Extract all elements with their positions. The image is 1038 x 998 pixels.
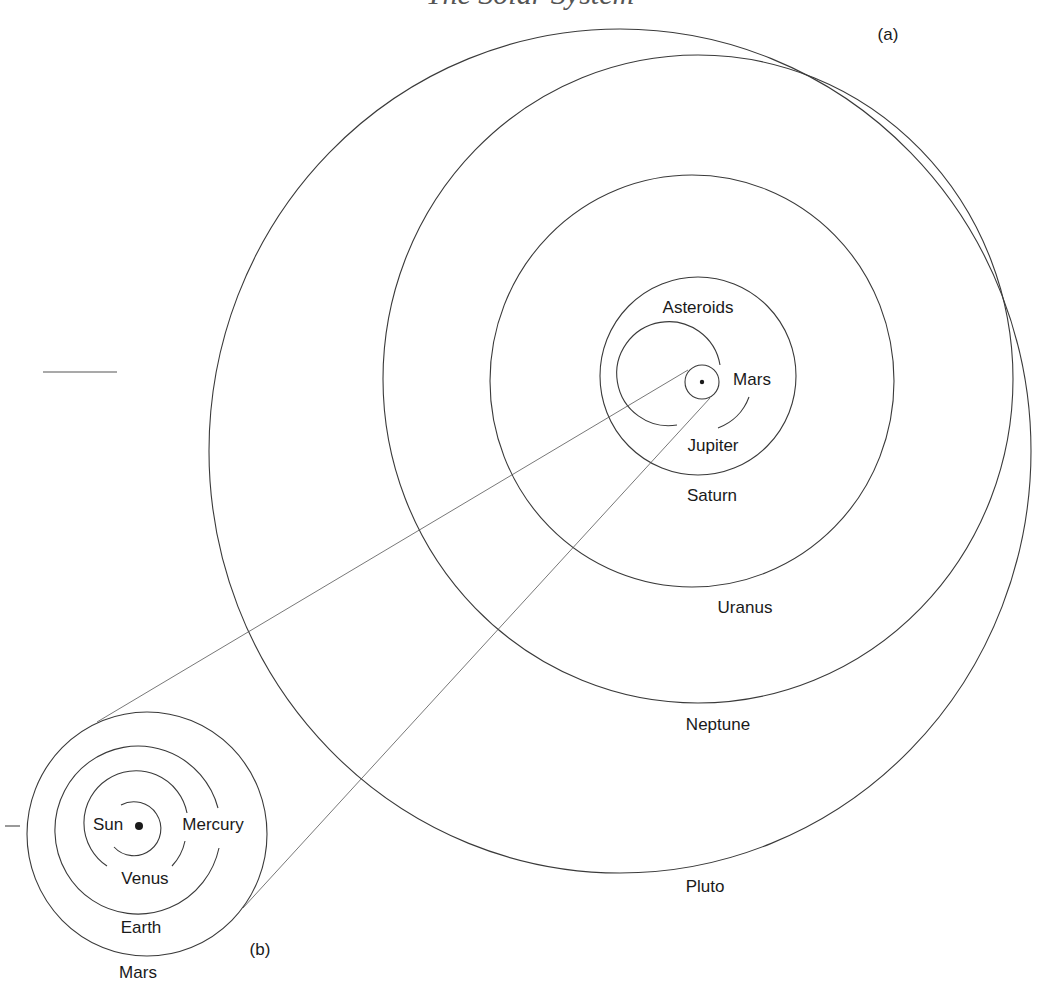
mars-label-a: Mars <box>733 370 771 389</box>
sun-dot <box>135 822 143 830</box>
zoom-guide-line-upper <box>97 370 688 722</box>
neptune-label: Neptune <box>686 715 750 734</box>
zoom-guide-line-lower <box>243 398 710 908</box>
mars-label-b: Mars <box>119 963 157 982</box>
solar-system-diagram: The Solar System (a) Asteroids Mars Jupi… <box>0 0 1038 998</box>
jupiter-label: Jupiter <box>687 436 738 455</box>
uranus-orbit <box>490 175 894 587</box>
venus-label: Venus <box>121 869 168 888</box>
pluto-label: Pluto <box>686 877 725 896</box>
sun-dot-small <box>700 380 704 384</box>
panel-b: Sun Mercury Venus Earth Mars (b) <box>27 712 270 982</box>
diagram-title: The Solar System <box>426 0 634 10</box>
mercury-label: Mercury <box>182 815 244 834</box>
panel-a: (a) Asteroids Mars Jupiter Saturn Uranus… <box>209 25 1031 896</box>
neptune-orbit <box>383 55 1013 703</box>
venus-orbit-arc-right <box>172 841 185 866</box>
uranus-label: Uranus <box>718 598 773 617</box>
jupiter-orbit-arc-main <box>617 322 720 426</box>
panel-b-label: (b) <box>250 940 271 959</box>
jupiter-orbit-arc-right <box>718 397 749 428</box>
pluto-orbit <box>209 29 1031 873</box>
asteroids-label: Asteroids <box>663 298 734 317</box>
sun-label: Sun <box>93 815 123 834</box>
earth-label: Earth <box>121 918 162 937</box>
saturn-label: Saturn <box>687 486 737 505</box>
panel-a-label: (a) <box>878 25 899 44</box>
